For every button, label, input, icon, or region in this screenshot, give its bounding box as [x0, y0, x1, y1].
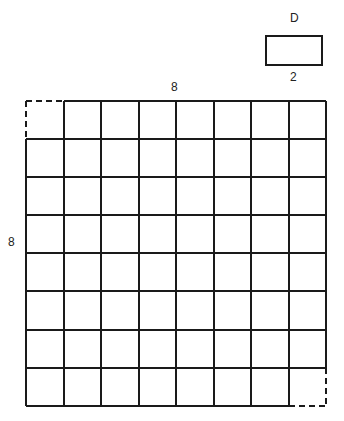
board-grid — [26, 101, 326, 406]
removed-corner-bottom-right — [289, 368, 326, 406]
chessboard-diagram — [0, 0, 344, 421]
domino-rectangle — [266, 36, 322, 65]
removed-corner-top-left — [26, 101, 64, 139]
